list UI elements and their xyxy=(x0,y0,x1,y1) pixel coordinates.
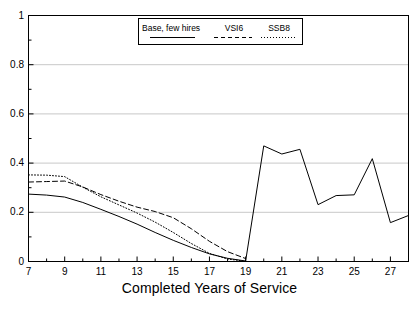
y-tick-label: 0.6 xyxy=(0,109,24,119)
y-tick-label: 1 xyxy=(0,11,24,21)
x-tick-label: 23 xyxy=(303,267,333,277)
y-tick-label: 0.4 xyxy=(0,158,24,168)
x-axis-title: Completed Years of Service xyxy=(0,280,419,296)
gridlines-group xyxy=(29,65,409,213)
x-tick-label: 15 xyxy=(158,267,188,277)
line-chart-plot xyxy=(0,0,419,310)
legend-label-ssb8: SSB8 xyxy=(259,24,299,33)
x-tick-label: 27 xyxy=(375,267,405,277)
x-tick-label: 17 xyxy=(194,267,224,277)
y-tick-label: 0 xyxy=(0,257,24,267)
x-tick-label: 11 xyxy=(86,267,116,277)
y-tick-label: 0.8 xyxy=(0,60,24,70)
axis-ticks-group xyxy=(29,16,409,262)
x-tick-label: 9 xyxy=(50,267,80,277)
legend-label-vsi6: VSI6 xyxy=(214,24,254,33)
x-tick-label: 19 xyxy=(231,267,261,277)
x-tick-label: 25 xyxy=(339,267,369,277)
plot-frame xyxy=(29,16,409,262)
y-tick-label: 0.2 xyxy=(0,207,24,217)
x-tick-label: 21 xyxy=(267,267,297,277)
legend-label-base: Base, few hires xyxy=(142,24,212,33)
series-line-ssb8 xyxy=(29,175,246,261)
series-line-vsi6 xyxy=(29,181,246,258)
x-tick-label: 7 xyxy=(14,267,44,277)
x-tick-label: 13 xyxy=(122,267,152,277)
chart-container: Base, few hires VSI6 SSB8 00.20.40.60.81… xyxy=(0,0,419,310)
